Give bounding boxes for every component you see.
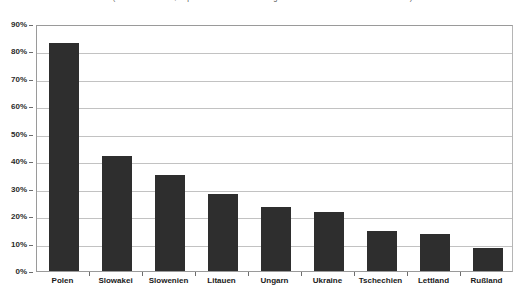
y-tick-mark <box>29 245 33 246</box>
x-tick-label: Ukraine <box>313 276 342 286</box>
y-tick-mark <box>29 25 33 26</box>
x-tick-label: Rußland <box>471 276 503 286</box>
x-tick-label: Tschechien <box>359 276 402 286</box>
x-axis: PolenSlowakeiSlowenienLitauenUngarnUkrai… <box>36 276 513 292</box>
x-tick-mark <box>89 272 90 276</box>
y-tick-label: 50% <box>11 131 27 139</box>
y-tick-label: 60% <box>11 103 27 111</box>
x-tick-mark <box>142 272 143 276</box>
x-tick-mark <box>460 272 461 276</box>
bar <box>420 234 450 271</box>
x-tick-mark <box>195 272 196 276</box>
y-tick-mark <box>29 52 33 53</box>
y-tick-mark <box>29 272 33 273</box>
x-tick-mark <box>407 272 408 276</box>
x-tick-label: Ungarn <box>261 276 289 286</box>
y-tick-mark <box>29 135 33 136</box>
bar <box>155 175 185 271</box>
y-tick-mark <box>29 162 33 163</box>
bar <box>367 231 397 271</box>
y-tick-label: 90% <box>11 21 27 29</box>
y-tick-label: 20% <box>11 213 27 221</box>
x-tick-mark <box>248 272 249 276</box>
x-tick-mark <box>354 272 355 276</box>
x-tick-label: Slowakei <box>98 276 132 286</box>
x-tick-label: Litauen <box>207 276 235 286</box>
bar <box>261 207 291 271</box>
bar <box>208 194 238 271</box>
y-tick-label: 0% <box>15 268 27 276</box>
x-tick-mark <box>301 272 302 276</box>
bar <box>473 248 503 271</box>
plot-area <box>36 25 513 272</box>
y-tick-label: 10% <box>11 241 27 249</box>
x-tick-label: Slowenien <box>149 276 189 286</box>
y-tick-mark <box>29 107 33 108</box>
bar <box>314 212 344 271</box>
y-tick-label: 40% <box>11 158 27 166</box>
y-tick-label: 80% <box>11 48 27 56</box>
y-tick-label: 70% <box>11 76 27 84</box>
y-tick-mark <box>29 217 33 218</box>
bar-chart-figure: (Stand: März 1999, Exportanteile in Proz… <box>0 0 525 299</box>
bar <box>102 156 132 271</box>
bars-series <box>37 26 512 271</box>
x-tick-label: Polen <box>52 276 74 286</box>
y-tick-label: 30% <box>11 186 27 194</box>
y-tick-mark <box>29 190 33 191</box>
y-tick-mark <box>29 80 33 81</box>
bar <box>49 43 79 271</box>
y-axis: 0%10%20%30%40%50%60%70%80%90% <box>0 25 33 272</box>
chart-subtitle: (Stand: März 1999, Exportanteile in Proz… <box>0 0 525 2</box>
x-tick-label: Lettland <box>418 276 449 286</box>
